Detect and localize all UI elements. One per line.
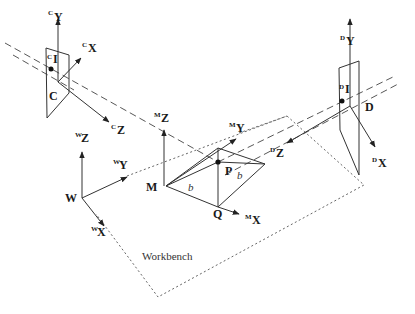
svg-text:D: D [340, 34, 345, 42]
svg-text:M: M [245, 213, 252, 221]
camera-c-image-point [49, 67, 54, 72]
camera-c-z-axis [58, 82, 109, 122]
camera-d-z-label: Z [276, 146, 284, 160]
point-p [215, 159, 220, 164]
projection-rays [5, 43, 400, 175]
camera-d-image-plane [339, 61, 359, 175]
camera-d-y-label: Y [346, 34, 355, 48]
svg-text:D: D [339, 83, 344, 91]
camera-c-image-point-label: I [53, 52, 58, 66]
world-y-label: Y [119, 158, 128, 172]
marker-frame: M P Q b b M Z M Y M X [146, 111, 265, 227]
camera-c-z-label: Z [117, 123, 125, 137]
camera-d-image-point [340, 99, 345, 104]
svg-text:M: M [229, 121, 236, 129]
world-z-label: Z [81, 131, 89, 145]
world-frame: W W Z W Y W X [65, 131, 128, 239]
svg-text:C: C [111, 123, 116, 131]
camera-c-y-label: Y [54, 10, 63, 24]
camera-c: C C I C Y C X C Z [46, 9, 125, 137]
svg-text:M: M [154, 111, 161, 119]
svg-text:D: D [372, 156, 377, 164]
point-q-label: Q [213, 207, 222, 221]
camera-d: D D I D Y D X D Z [270, 19, 387, 175]
camera-c-x-label: X [88, 41, 97, 55]
workbench-label: Workbench [142, 250, 193, 262]
edge-b-label-1: b [188, 181, 194, 193]
marker-y-label: Y [236, 121, 245, 135]
diagram-canvas: C C I C Y C X C Z D D I D Y D X D Z W W … [0, 0, 415, 314]
world-origin-label: W [65, 191, 77, 205]
world-x-label: X [97, 225, 106, 239]
point-p-label: P [225, 164, 232, 178]
camera-d-origin-label: D [365, 100, 374, 114]
edge-b-label-2: b [237, 169, 243, 181]
camera-d-image-point-label: I [345, 82, 350, 96]
svg-text:C: C [48, 9, 53, 17]
svg-text:C: C [47, 53, 52, 61]
camera-d-x-label: X [378, 156, 387, 170]
camera-c-origin-label: C [49, 89, 58, 103]
marker-origin-label: M [146, 180, 157, 194]
camera-d-z-axis [287, 106, 350, 143]
world-y-axis [82, 177, 127, 198]
marker-x-label: X [252, 213, 261, 227]
svg-text:C: C [82, 41, 87, 49]
svg-text:D: D [270, 146, 275, 154]
marker-patch [166, 148, 265, 207]
marker-z-label: Z [161, 111, 169, 125]
world-x-axis [82, 198, 104, 226]
